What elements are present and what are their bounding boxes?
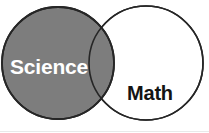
venn-diagram-figure: Science Math (0, 0, 209, 133)
set-label-science: Science (10, 55, 88, 78)
venn-diagram-canvas: Science Math (0, 0, 209, 133)
set-label-math: Math (127, 82, 173, 104)
bottom-crop-artifact (0, 131, 209, 132)
